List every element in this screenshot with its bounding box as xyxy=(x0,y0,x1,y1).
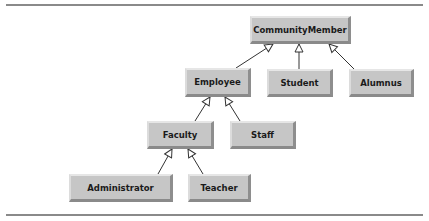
edge-staff-employee xyxy=(225,97,240,121)
class-alumnus: Alumnus xyxy=(349,69,414,97)
class-student: Student xyxy=(267,69,333,97)
class-communitymember: CommunityMember xyxy=(250,16,351,44)
class-faculty: Faculty xyxy=(147,121,214,149)
edge-employee-communitymember xyxy=(236,44,273,68)
edge-teacher-faculty xyxy=(188,149,203,174)
class-administrator: Administrator xyxy=(69,174,173,202)
class-teacher: Teacher xyxy=(188,174,251,202)
edge-faculty-employee xyxy=(195,97,210,121)
class-employee: Employee xyxy=(185,68,251,97)
edge-administrator-faculty xyxy=(158,149,172,174)
class-staff: Staff xyxy=(230,121,296,149)
edge-alumnus-communitymember xyxy=(329,44,354,69)
